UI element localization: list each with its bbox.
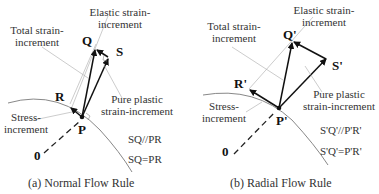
label-line: increment xyxy=(289,16,359,28)
caption-a: (a) Normal Flow Rule xyxy=(28,176,134,191)
point-o-label: 0 xyxy=(222,144,229,160)
point-q-label: Q' xyxy=(283,27,297,43)
label-pure-plastic: Pure plastic strain-increment xyxy=(300,88,378,112)
relation-parallel: SQ//PR xyxy=(128,133,162,145)
relation-equal: SQ=PR xyxy=(128,153,162,165)
label-line: increment xyxy=(85,18,155,30)
label-line: strain-increment xyxy=(300,100,378,112)
label-stress-increment: Stress- increment xyxy=(200,100,248,124)
point-p-label: P xyxy=(78,122,86,138)
label-line: Stress- xyxy=(200,100,248,112)
label-line: increment xyxy=(2,123,50,135)
stress-increment-vector xyxy=(71,108,82,117)
point-s-label: S' xyxy=(332,58,343,74)
label-line: Pure plastic xyxy=(300,88,378,100)
relation-equal: S'Q'=P'R' xyxy=(320,145,362,157)
label-line: Total strain- xyxy=(203,20,265,32)
label-line: Elastic strain- xyxy=(289,4,359,16)
label-total-strain: Total strain- increment xyxy=(203,20,265,44)
point-q-label: Q xyxy=(82,33,92,49)
label-elastic-strain: Elastic strain- increment xyxy=(85,6,155,30)
label-line: Elastic strain- xyxy=(85,6,155,18)
caption-b: (b) Radial Flow Rule xyxy=(230,176,332,191)
stress-increment-vector xyxy=(250,90,279,108)
label-line: Total strain- xyxy=(6,24,68,36)
label-total-strain: Total strain- increment xyxy=(6,24,68,48)
label-line: increment xyxy=(200,112,248,124)
label-stress-increment: Stress- increment xyxy=(2,111,50,135)
point-r-label: R' xyxy=(234,76,247,92)
label-elastic-strain: Elastic strain- increment xyxy=(289,4,359,28)
label-line: Stress- xyxy=(2,111,50,123)
point-o-label: 0 xyxy=(34,148,41,164)
elastic-strain-vector xyxy=(294,42,326,59)
label-line: increment xyxy=(203,32,265,44)
point-p-label: P' xyxy=(276,113,288,129)
elastic-strain-vector xyxy=(97,50,108,57)
label-pure-plastic: Pure plastic strain-increment xyxy=(98,93,176,117)
label-line: strain-increment xyxy=(98,105,176,117)
point-s-label: S xyxy=(116,44,123,60)
relation-parallel: S'Q'//P'R' xyxy=(320,124,362,136)
label-line: increment xyxy=(6,36,68,48)
total-strain-vector xyxy=(82,50,95,117)
point-r-label: R xyxy=(55,89,64,105)
label-line: Pure plastic xyxy=(98,93,176,105)
